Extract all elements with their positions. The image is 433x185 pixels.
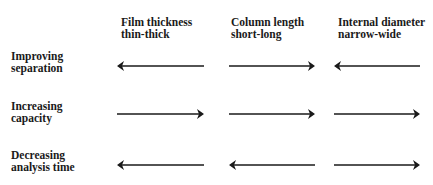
column-range: short-long xyxy=(231,28,304,40)
column-range: narrow-wide xyxy=(338,28,425,40)
column-range: thin-thick xyxy=(121,28,192,40)
row-label-line: capacity xyxy=(11,112,63,124)
arrow-right-icon xyxy=(334,108,420,120)
column-title: Column length xyxy=(231,16,304,28)
arrow-left-icon xyxy=(117,60,204,72)
row-label-increasing-capacity: Increasing capacity xyxy=(11,100,63,124)
arrow-right-icon xyxy=(334,159,420,171)
arrow-right-icon xyxy=(117,108,204,120)
column-header-film-thickness: Film thickness thin-thick xyxy=(121,16,192,40)
column-header-column-length: Column length short-long xyxy=(231,16,304,40)
row-label-improving-separation: Improving separation xyxy=(11,50,63,74)
arrow-left-icon xyxy=(334,60,420,72)
row-label-line: analysis time xyxy=(11,161,75,173)
row-label-line: separation xyxy=(11,62,63,74)
row-label-decreasing-analysis-time: Decreasing analysis time xyxy=(11,149,75,173)
arrow-right-icon xyxy=(229,60,315,72)
row-label-line: Decreasing xyxy=(11,149,75,161)
column-header-internal-diameter: Internal diameter narrow-wide xyxy=(338,16,425,40)
arrow-left-icon xyxy=(117,159,204,171)
column-title: Film thickness xyxy=(121,16,192,28)
row-label-line: Increasing xyxy=(11,100,63,112)
row-label-line: Improving xyxy=(11,50,63,62)
arrow-right-icon xyxy=(229,108,315,120)
column-title: Internal diameter xyxy=(338,16,425,28)
arrow-left-icon xyxy=(229,159,315,171)
